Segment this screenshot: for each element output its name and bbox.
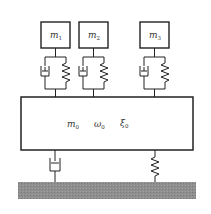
spring-icon [161,57,169,89]
mass-m3: m3 [140,22,169,48]
spring-mass-diagram: m1 m2 [0,0,211,214]
ground-spring [151,150,159,182]
mass-m1: m1 [41,22,70,48]
main-body: m0 ω0 ξ0 [21,97,193,150]
ground [18,182,196,199]
mass-m2: m2 [79,22,108,48]
spring-icon [62,57,70,89]
damper-icon [50,150,60,182]
damper-icon [140,57,148,89]
ground-damper [50,150,60,182]
damper-icon [41,57,49,89]
spring-icon [100,57,108,89]
spring-damper-1 [41,48,70,97]
spring-damper-3 [140,48,169,97]
spring-damper-2 [79,48,108,97]
damper-icon [79,57,87,89]
spring-icon [151,150,159,182]
